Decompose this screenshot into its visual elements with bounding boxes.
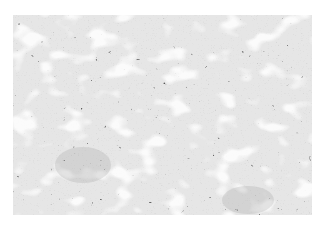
micrograph-texture [13, 15, 312, 215]
histology-micrograph [13, 15, 312, 215]
